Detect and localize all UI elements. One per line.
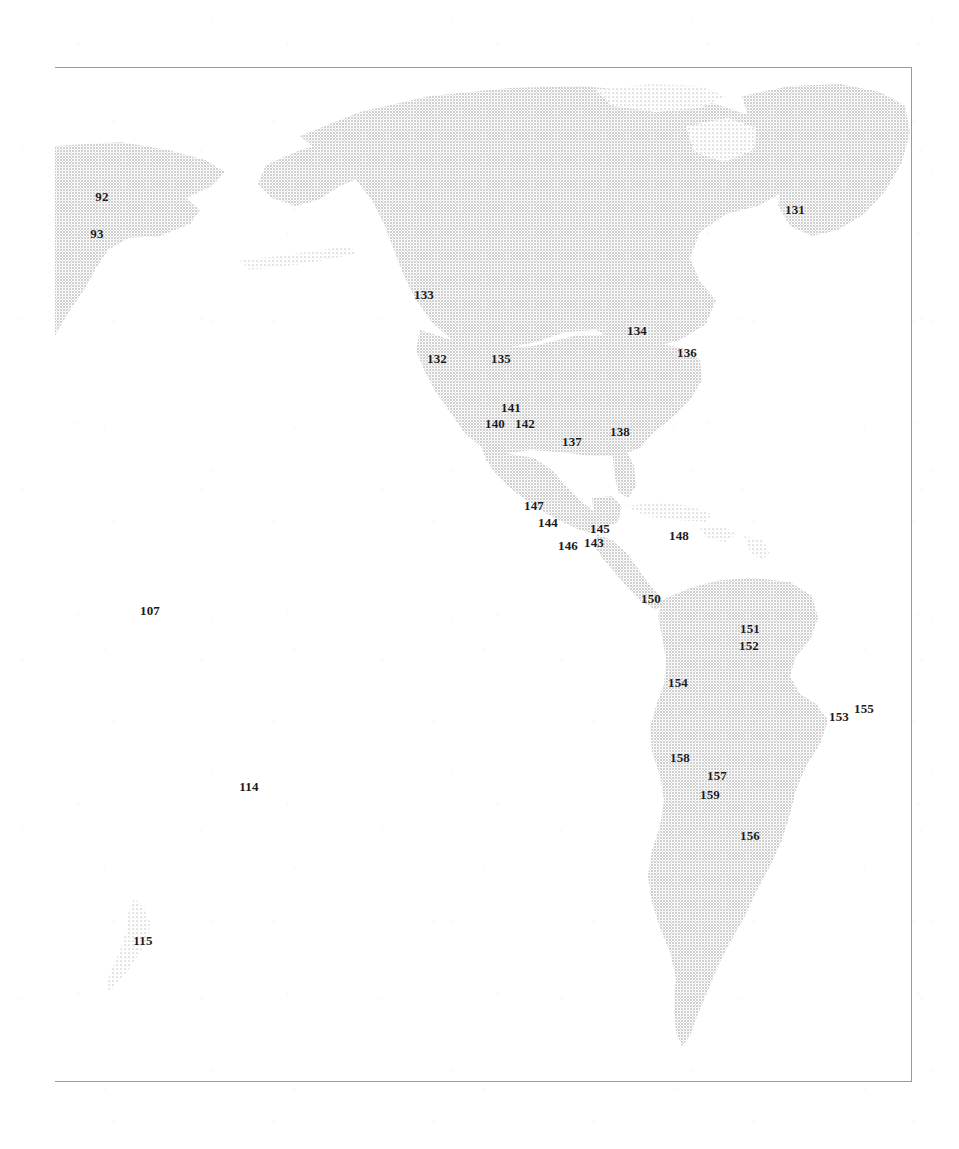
site-label-115: 115 bbox=[133, 934, 152, 947]
site-label-151: 151 bbox=[740, 622, 760, 635]
site-label-157: 157 bbox=[707, 769, 727, 782]
site-label-138: 138 bbox=[610, 425, 630, 438]
site-label-150: 150 bbox=[641, 592, 661, 605]
site-label-107: 107 bbox=[140, 604, 160, 617]
site-label-155: 155 bbox=[854, 702, 874, 715]
site-label-142: 142 bbox=[515, 417, 535, 430]
site-label-158: 158 bbox=[670, 751, 690, 764]
site-label-132: 132 bbox=[427, 352, 447, 365]
map-frame-border bbox=[55, 67, 912, 1082]
site-label-153: 153 bbox=[829, 710, 849, 723]
site-label-141: 141 bbox=[501, 401, 521, 414]
site-label-152: 152 bbox=[739, 639, 759, 652]
site-label-134: 134 bbox=[627, 324, 647, 337]
site-label-148: 148 bbox=[669, 529, 689, 542]
site-label-114: 114 bbox=[239, 780, 258, 793]
site-label-136: 136 bbox=[677, 346, 697, 359]
site-label-92: 92 bbox=[95, 190, 108, 203]
site-label-144: 144 bbox=[538, 516, 558, 529]
site-label-154: 154 bbox=[668, 676, 688, 689]
site-label-156: 156 bbox=[740, 829, 760, 842]
site-label-146: 146 bbox=[558, 539, 578, 552]
site-label-93: 93 bbox=[90, 227, 103, 240]
site-label-131: 131 bbox=[785, 203, 805, 216]
site-label-140: 140 bbox=[485, 417, 505, 430]
site-label-137: 137 bbox=[562, 435, 582, 448]
site-label-147: 147 bbox=[524, 499, 544, 512]
site-label-159: 159 bbox=[700, 788, 720, 801]
site-label-133: 133 bbox=[414, 288, 434, 301]
scanned-page: 9293131133134132135136141140142138137147… bbox=[0, 0, 959, 1149]
site-label-143: 143 bbox=[584, 536, 604, 549]
site-label-135: 135 bbox=[491, 352, 511, 365]
site-label-145: 145 bbox=[590, 522, 610, 535]
